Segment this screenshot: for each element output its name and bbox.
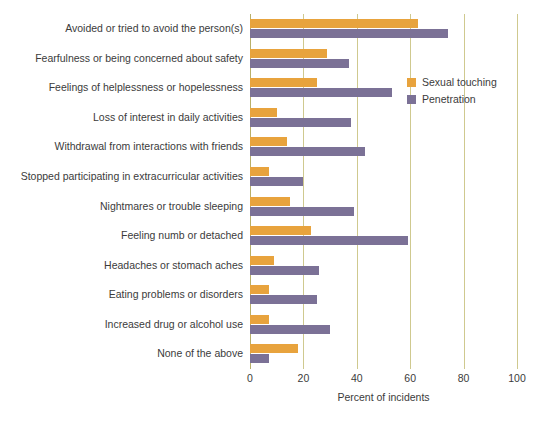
bar-row: Increased drug or alcohol use bbox=[250, 310, 517, 340]
chart-page: Avoided or tried to avoid the person(s)F… bbox=[0, 0, 533, 422]
category-label: Nightmares or trouble sleeping bbox=[100, 197, 243, 216]
legend-swatch-icon bbox=[407, 95, 416, 104]
bar-row: Nightmares or trouble sleeping bbox=[250, 192, 517, 222]
bar-row: Fearfulness or being concerned about saf… bbox=[250, 44, 517, 74]
bar-sexual-touching bbox=[250, 256, 274, 265]
bar-sexual-touching bbox=[250, 167, 269, 176]
bar-penetration bbox=[250, 295, 317, 304]
chart-legend: Sexual touchingPenetration bbox=[407, 76, 497, 110]
bar-row: Stopped participating in extracurricular… bbox=[250, 162, 517, 192]
x-tick-label-0: 0 bbox=[247, 372, 253, 384]
bar-sexual-touching bbox=[250, 78, 317, 87]
category-label: Feelings of helplessness or hopelessness bbox=[49, 78, 243, 97]
bar-sexual-touching bbox=[250, 315, 269, 324]
category-label: Loss of interest in daily activities bbox=[93, 108, 243, 127]
bar-row: Headaches or stomach aches bbox=[250, 251, 517, 281]
legend-label: Penetration bbox=[422, 93, 476, 105]
x-tick-label-100: 100 bbox=[508, 372, 526, 384]
bar-penetration bbox=[250, 147, 365, 156]
legend-item-penetration[interactable]: Penetration bbox=[407, 93, 497, 105]
plot-area: Avoided or tried to avoid the person(s)F… bbox=[250, 14, 517, 369]
x-axis-tick-labels: 020406080100 bbox=[250, 372, 517, 388]
bar-penetration bbox=[250, 236, 408, 245]
bar-row: Avoided or tried to avoid the person(s) bbox=[250, 14, 517, 44]
bar-penetration bbox=[250, 325, 330, 334]
bar-sexual-touching bbox=[250, 226, 311, 235]
bar-sexual-touching bbox=[250, 49, 327, 58]
legend-swatch-icon bbox=[407, 78, 416, 87]
category-label: Headaches or stomach aches bbox=[104, 256, 243, 275]
category-label: Increased drug or alcohol use bbox=[105, 315, 243, 334]
bar-penetration bbox=[250, 354, 269, 363]
bar-penetration bbox=[250, 118, 351, 127]
x-axis-title: Percent of incidents bbox=[250, 391, 517, 403]
x-tick-label-20: 20 bbox=[298, 372, 310, 384]
bar-penetration bbox=[250, 207, 354, 216]
bar-row: Feeling numb or detached bbox=[250, 221, 517, 251]
bar-row: None of the above bbox=[250, 339, 517, 369]
x-tick-label-60: 60 bbox=[404, 372, 416, 384]
bar-penetration bbox=[250, 88, 392, 97]
bar-sexual-touching bbox=[250, 197, 290, 206]
category-label: Fearfulness or being concerned about saf… bbox=[35, 49, 243, 68]
bar-penetration bbox=[250, 177, 303, 186]
bar-row: Eating problems or disorders bbox=[250, 280, 517, 310]
bar-penetration bbox=[250, 29, 448, 38]
category-label: Withdrawal from interactions with friend… bbox=[55, 137, 243, 156]
x-tick-label-80: 80 bbox=[458, 372, 470, 384]
gridline-100 bbox=[517, 14, 518, 369]
bar-sexual-touching bbox=[250, 344, 298, 353]
bar-sexual-touching bbox=[250, 108, 277, 117]
category-label: Feeling numb or detached bbox=[121, 226, 243, 245]
bar-penetration bbox=[250, 266, 319, 275]
legend-label: Sexual touching bbox=[422, 76, 497, 88]
bar-sexual-touching bbox=[250, 137, 287, 146]
bar-sexual-touching bbox=[250, 285, 269, 294]
category-label: Avoided or tried to avoid the person(s) bbox=[65, 19, 243, 38]
category-label: Eating problems or disorders bbox=[109, 285, 243, 304]
bar-penetration bbox=[250, 59, 349, 68]
category-label: Stopped participating in extracurricular… bbox=[21, 167, 243, 186]
bar-row: Withdrawal from interactions with friend… bbox=[250, 132, 517, 162]
legend-item-sexual-touching[interactable]: Sexual touching bbox=[407, 76, 497, 88]
bar-sexual-touching bbox=[250, 19, 418, 28]
x-tick-label-40: 40 bbox=[351, 372, 363, 384]
category-label: None of the above bbox=[157, 344, 243, 363]
